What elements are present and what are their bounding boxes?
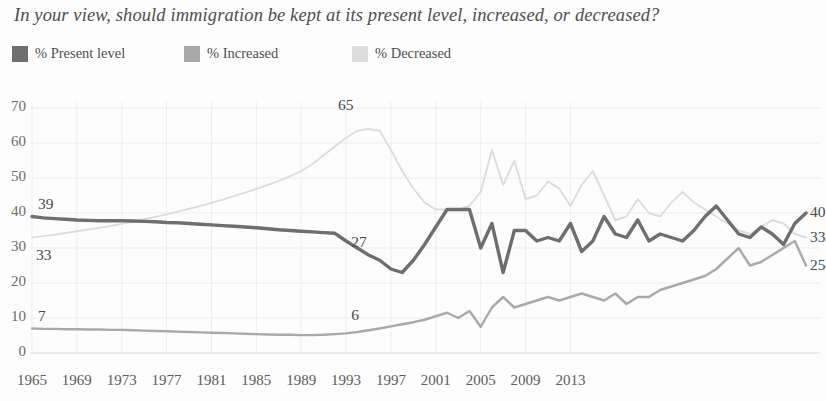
x-axis-tick: 1973 — [97, 372, 147, 389]
y-axis-tick: 40 — [0, 203, 26, 220]
x-axis-tick: 1997 — [366, 372, 416, 389]
data-label: 25 — [810, 256, 826, 274]
y-axis-tick: 50 — [0, 168, 26, 185]
data-label: 33 — [36, 246, 52, 264]
x-axis-tick: 1977 — [142, 372, 192, 389]
data-label: 65 — [338, 96, 354, 114]
x-axis-tick: 1981 — [186, 372, 236, 389]
x-axis-tick: 1989 — [276, 372, 326, 389]
data-label: 6 — [351, 306, 359, 324]
data-label: 33 — [810, 228, 826, 246]
x-axis-tick: 2001 — [411, 372, 461, 389]
y-axis-tick: 0 — [0, 343, 26, 360]
y-axis-tick: 60 — [0, 133, 26, 150]
y-axis-tick: 70 — [0, 98, 26, 115]
data-label: 39 — [38, 195, 54, 213]
data-label: 40 — [810, 203, 826, 221]
data-label: 27 — [351, 233, 367, 251]
x-axis-tick: 1993 — [321, 372, 371, 389]
x-axis-tick: 2013 — [545, 372, 595, 389]
x-axis-tick: 1969 — [52, 372, 102, 389]
x-axis-tick: 1965 — [7, 372, 57, 389]
x-axis-tick: 1985 — [231, 372, 281, 389]
x-axis-tick: 2009 — [501, 372, 551, 389]
data-label: 7 — [38, 307, 46, 325]
x-axis-tick: 2005 — [456, 372, 506, 389]
immigration-poll-chart: In your view, should immigration be kept… — [0, 0, 826, 401]
y-axis-tick: 10 — [0, 308, 26, 325]
y-axis-tick: 20 — [0, 273, 26, 290]
plot-area — [0, 0, 826, 401]
y-axis-tick: 30 — [0, 238, 26, 255]
